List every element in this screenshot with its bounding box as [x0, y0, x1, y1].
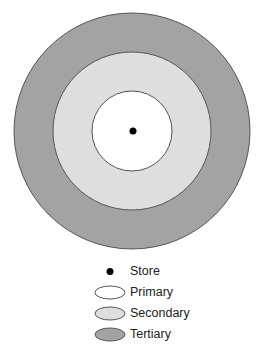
legend-label: Primary: [130, 284, 173, 300]
store-dot: [130, 128, 137, 135]
primary-ellipse-icon: [94, 285, 126, 300]
legend-label: Tertiary: [130, 326, 171, 342]
secondary-ellipse-icon: [94, 306, 126, 321]
store-dot-icon: [94, 264, 126, 279]
tertiary-ellipse-icon: [94, 327, 126, 342]
legend-label: Store: [130, 263, 160, 279]
legend-label: Secondary: [130, 305, 190, 321]
trade-area-diagram: [0, 0, 260, 260]
